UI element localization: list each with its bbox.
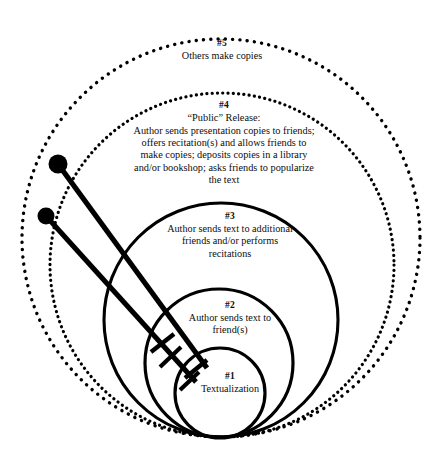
ring-label-4: #4 “Public” Release:Author sends present…	[104, 100, 344, 186]
pointer-upper-head-dot	[49, 155, 68, 174]
ring-label-1: #1 Textualization	[165, 371, 295, 395]
diagram-canvas: #5 Others make copies #4 “Public” Releas…	[0, 0, 444, 449]
ring-text-3: Author sends text to additionalfriends a…	[140, 223, 320, 260]
pointer-upper	[49, 155, 208, 379]
ring-number-5: #5	[132, 38, 312, 49]
ring-number-3: #3	[140, 211, 320, 222]
ring-text-1: Textualization	[165, 383, 295, 395]
ring-text-4: “Public” Release:Author sends presentati…	[104, 112, 344, 186]
ring-number-2: #2	[160, 300, 300, 311]
ring-number-1: #1	[165, 371, 295, 382]
ring-number-4: #4	[104, 100, 344, 111]
ring-label-3: #3 Author sends text to additionalfriend…	[140, 211, 320, 260]
ring-label-5: #5 Others make copies	[132, 38, 312, 62]
ring-text-5: Others make copies	[132, 50, 312, 62]
ring-label-2: #2 Author sends text tofriend(s)	[160, 300, 300, 336]
pointer-lower-head-dot	[38, 208, 55, 225]
ring-text-2: Author sends text tofriend(s)	[160, 312, 300, 336]
pointer-upper-shaft	[58, 164, 207, 368]
